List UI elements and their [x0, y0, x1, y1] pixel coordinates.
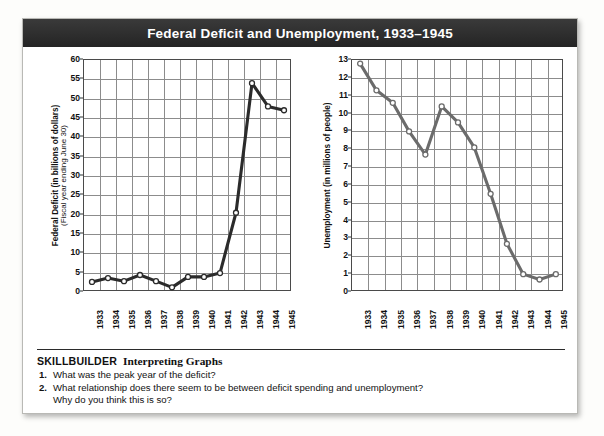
skillbuilder-topic: Interpreting Graphs: [123, 355, 222, 367]
y-axis-tick-label: 25: [70, 189, 80, 199]
x-axis-tick-label: 1939: [461, 310, 471, 329]
x-axis-tick-label: 1942: [510, 310, 520, 329]
data-point-marker: [358, 61, 363, 66]
x-axis-tick-label: 1937: [428, 310, 438, 329]
y-axis-tick-label: 10: [338, 108, 348, 118]
figure-card: Federal Deficit and Unemployment, 1933–1…: [22, 18, 578, 414]
data-point-marker: [154, 279, 159, 284]
page-title: Federal Deficit and Unemployment, 1933–1…: [147, 26, 453, 41]
data-point-marker: [234, 210, 239, 215]
data-point-marker: [186, 274, 191, 279]
data-point-marker: [250, 81, 255, 86]
charts-container: Federal Deficit (in billions of dollars)…: [23, 47, 577, 347]
data-point-marker: [439, 104, 444, 109]
data-series-line: [84, 60, 292, 292]
data-point-marker: [456, 120, 461, 125]
y-axis-tick-label: 15: [70, 228, 80, 238]
data-point-marker: [407, 129, 412, 134]
question-number: 2.: [39, 382, 53, 395]
data-series-line: [352, 60, 564, 292]
x-axis-tick-label: 1939: [191, 310, 201, 329]
x-axis-tick-label: 1934: [379, 310, 389, 329]
x-axis-tick-label: 1933: [95, 310, 105, 329]
data-point-marker: [521, 272, 526, 277]
data-point-marker: [218, 271, 223, 276]
x-axis-tick-label: 1938: [445, 310, 455, 329]
x-axis-tick-label: 1936: [412, 310, 422, 329]
x-axis-tick-label: 1945: [287, 310, 297, 329]
data-point-marker: [282, 108, 287, 113]
x-axis-tick-label: 1943: [255, 310, 265, 329]
data-point-marker: [90, 279, 95, 284]
y-axis-tick-label: 12: [338, 72, 348, 82]
left-chart-plot: [83, 59, 291, 291]
data-point-marker: [122, 279, 127, 284]
question-text: What relationship does there seem to be …: [53, 382, 565, 395]
x-axis-tick-label: 1941: [494, 310, 504, 329]
data-point-marker: [553, 272, 558, 277]
x-axis-tick-label: 1945: [559, 310, 569, 329]
y-axis-tick-label: 40: [70, 131, 80, 141]
chart-federal-deficit: Federal Deficit (in billions of dollars)…: [27, 47, 299, 347]
figure-title-bar: Federal Deficit and Unemployment, 1933–1…: [23, 19, 577, 47]
x-axis-tick-label: 1938: [175, 310, 185, 329]
right-chart-y-labels: 012345678910111213: [329, 59, 351, 291]
right-chart-plot: [351, 59, 563, 291]
question-text: What was the peak year of the deficit?: [53, 369, 565, 382]
skillbuilder-label: SKILLBUILDER: [37, 355, 117, 367]
y-axis-tick-label: 11: [339, 90, 348, 100]
y-axis-tick-label: 35: [70, 151, 80, 161]
data-point-marker: [170, 285, 175, 290]
x-axis-tick-label: 1935: [396, 310, 406, 329]
left-chart-x-labels: 1933193419351936193719381939194019411942…: [83, 295, 291, 335]
data-point-marker: [472, 145, 477, 150]
y-axis-tick-label: 30: [70, 170, 80, 180]
question-text-continuation: Why do you think this is so?: [53, 394, 565, 407]
question-number: 1.: [39, 369, 53, 382]
data-point-marker: [266, 104, 271, 109]
x-axis-tick-label: 1937: [159, 310, 169, 329]
data-point-marker: [537, 277, 542, 282]
x-axis-tick-label: 1942: [239, 310, 249, 329]
data-point-marker: [106, 276, 111, 281]
x-axis-tick-label: 1935: [127, 310, 137, 329]
data-point-marker: [202, 274, 207, 279]
x-axis-tick-label: 1940: [477, 310, 487, 329]
x-axis-tick-label: 1934: [111, 310, 121, 329]
chart-unemployment: Unemployment (in millions of people) 012…: [301, 47, 575, 347]
skillbuilder-section: SKILLBUILDER Interpreting Graphs 1. What…: [37, 349, 565, 407]
question-item: 1. What was the peak year of the deficit…: [39, 369, 565, 382]
y-axis-tick-label: 55: [70, 73, 80, 83]
x-axis-tick-label: 1941: [223, 310, 233, 329]
y-axis-tick-label: 13: [338, 54, 348, 64]
data-point-marker: [504, 241, 509, 246]
y-axis-tick-label: 50: [70, 93, 80, 103]
y-axis-tick-label: 60: [70, 54, 80, 64]
y-axis-tick-label: 45: [70, 112, 80, 122]
x-axis-tick-label: 1936: [143, 310, 153, 329]
left-chart-y-labels: 051015202530354045505560: [61, 59, 83, 291]
data-point-marker: [390, 100, 395, 105]
right-chart-x-labels: 1933193419351936193719381939194019411942…: [351, 295, 563, 335]
question-item: 2. What relationship does there seem to …: [39, 382, 565, 395]
x-axis-tick-label: 1943: [526, 310, 536, 329]
x-axis-tick-label: 1940: [207, 310, 217, 329]
y-axis-tick-label: 10: [70, 247, 80, 257]
skillbuilder-heading: SKILLBUILDER Interpreting Graphs: [37, 355, 565, 367]
data-point-marker: [374, 88, 379, 93]
x-axis-tick-label: 1944: [543, 310, 553, 329]
x-axis-tick-label: 1933: [363, 310, 373, 329]
data-point-marker: [488, 191, 493, 196]
data-point-marker: [423, 152, 428, 157]
figure-page: Federal Deficit and Unemployment, 1933–1…: [0, 0, 604, 436]
x-axis-tick-label: 1944: [271, 310, 281, 329]
data-point-marker: [138, 272, 143, 277]
y-axis-tick-label: 20: [70, 209, 80, 219]
